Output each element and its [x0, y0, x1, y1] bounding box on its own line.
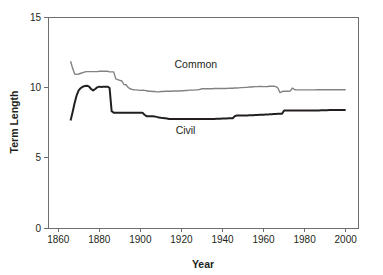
x-tick-label: 1940 — [211, 234, 234, 245]
chart-container: 051015 18601880190019201940196019802000 … — [0, 0, 383, 275]
x-tick-label: 1900 — [129, 234, 152, 245]
series-label-civil: Civil — [176, 124, 196, 136]
x-tick-label: 1960 — [252, 234, 275, 245]
x-tick-label: 1860 — [47, 234, 70, 245]
x-tick-label: 1880 — [88, 234, 111, 245]
y-tick-label: 10 — [30, 82, 42, 93]
series-line-civil — [71, 86, 346, 121]
axis-frame — [48, 17, 358, 228]
plot-frame — [48, 17, 358, 228]
y-axis-title: Term Length — [8, 91, 20, 154]
x-tick-label: 1920 — [170, 234, 193, 245]
x-tick-label: 2000 — [335, 234, 358, 245]
series-label-common: Common — [175, 58, 218, 70]
x-axis-title: Year — [192, 258, 214, 270]
y-tick-label: 15 — [30, 12, 42, 23]
x-axis-ticks: 18601880190019201940196019802000 — [47, 228, 357, 245]
y-tick-label: 5 — [35, 152, 41, 163]
x-tick-label: 1980 — [293, 234, 316, 245]
term-length-line-chart: 051015 18601880190019201940196019802000 … — [0, 0, 383, 275]
y-tick-label: 0 — [35, 223, 41, 234]
y-axis-ticks: 051015 — [30, 12, 48, 234]
